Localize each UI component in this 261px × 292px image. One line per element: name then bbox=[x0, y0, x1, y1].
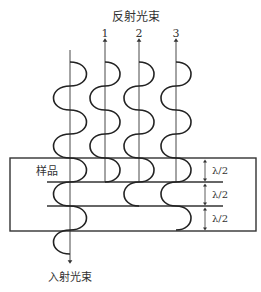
spacing-label-2: λ/2 bbox=[212, 189, 228, 200]
beam-label-3: 3 bbox=[173, 27, 180, 40]
reflected-beam-title: 反射光束 bbox=[112, 9, 160, 24]
beam-label-1: 1 bbox=[102, 27, 109, 40]
beam-label-2: 2 bbox=[136, 27, 143, 40]
sample-label: 样品 bbox=[36, 164, 58, 178]
bragg-reflection-diagram: 反射光束 1 2 3 样品 λ/2 λ/2 λ/2 入射光束 bbox=[0, 0, 261, 292]
spacing-label-1: λ/2 bbox=[212, 165, 228, 176]
incident-beam-title: 入射光束 bbox=[48, 270, 92, 284]
spacing-label-3: λ/2 bbox=[212, 213, 228, 224]
reflected-wave-2-lower bbox=[124, 182, 139, 206]
